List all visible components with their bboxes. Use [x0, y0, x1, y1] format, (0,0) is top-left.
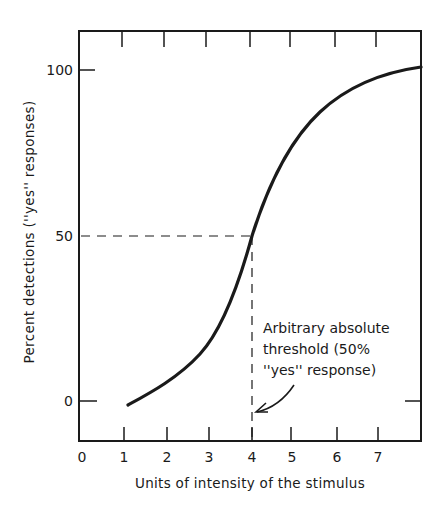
top-axis-ticks	[122, 31, 376, 47]
x-tick-3: 3	[205, 449, 214, 465]
annotation-line-2: threshold (50%	[263, 341, 370, 357]
chart: 100 50 0 0 1 2 3 4 5 6 7 Units of intens…	[0, 0, 444, 514]
x-axis-ticks	[124, 427, 378, 441]
x-tick-4: 4	[248, 449, 257, 465]
annotation-line-1: Arbitrary absolute	[263, 320, 390, 336]
annotation-line-3: ''yes'' response)	[263, 362, 376, 378]
x-tick-6: 6	[333, 449, 342, 465]
x-tick-0: 0	[78, 449, 87, 465]
x-axis-label: Units of intensity of the stimulus	[135, 475, 365, 491]
y-axis-label: Percent detections (''yes'' responses)	[21, 101, 37, 364]
y-tick-50: 50	[55, 228, 73, 244]
y-tick-100: 100	[46, 62, 73, 78]
x-tick-2: 2	[163, 449, 172, 465]
x-tick-7: 7	[374, 449, 383, 465]
annotation-arrow	[257, 385, 294, 412]
x-tick-1: 1	[120, 449, 129, 465]
x-tick-5: 5	[288, 449, 297, 465]
y-tick-0: 0	[64, 393, 73, 409]
